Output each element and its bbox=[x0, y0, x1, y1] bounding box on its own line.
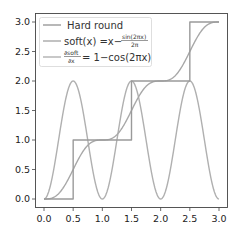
legend-frac-num-soft: sin(2πx) bbox=[122, 33, 146, 40]
legend: Hard round soft(x) =x− sin(2πx) 2π ∂soft… bbox=[40, 18, 152, 67]
legend-frac-den-soft: 2π bbox=[131, 41, 139, 48]
y-tick-label: 2.0 bbox=[15, 75, 30, 86]
y-tick-label: 3.0 bbox=[15, 16, 30, 27]
y-tick-label: 1.5 bbox=[15, 105, 30, 116]
legend-label-derivative: = 1−cos(2πx) bbox=[82, 52, 151, 63]
x-tick-label: 3.0 bbox=[211, 213, 226, 224]
x-tick-label: 1.0 bbox=[95, 213, 110, 224]
y-axis: 0.00.51.01.52.02.53.0 bbox=[15, 16, 36, 204]
x-tick-label: 2.0 bbox=[153, 213, 168, 224]
x-tick-label: 0.0 bbox=[36, 213, 51, 224]
x-tick-label: 1.5 bbox=[124, 213, 139, 224]
chart: 0.00.51.01.52.02.53.0 0.00.51.01.52.02.5… bbox=[0, 0, 240, 233]
legend-frac-den-derivative: ∂x bbox=[68, 57, 75, 64]
legend-label-hard-round: Hard round bbox=[67, 20, 123, 31]
x-axis: 0.00.51.01.52.02.53.0 bbox=[36, 208, 226, 225]
x-tick-label: 0.5 bbox=[66, 213, 81, 224]
y-tick-label: 0.5 bbox=[15, 164, 30, 175]
y-tick-label: 2.5 bbox=[15, 46, 30, 57]
legend-frac-num-derivative: ∂soft bbox=[64, 49, 79, 56]
y-tick-label: 0.0 bbox=[15, 193, 30, 204]
legend-label-soft: soft(x) =x− bbox=[64, 36, 122, 47]
x-tick-label: 2.5 bbox=[182, 213, 197, 224]
y-tick-label: 1.0 bbox=[15, 134, 30, 145]
